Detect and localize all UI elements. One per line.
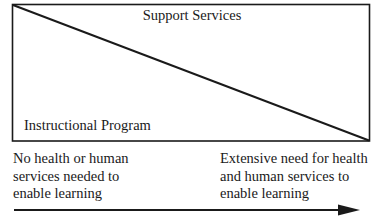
axis-left-label: No health or human services needed to en… <box>13 150 129 203</box>
arrow-head-icon <box>338 205 360 216</box>
axis-right-line: Extensive need for health <box>220 150 368 168</box>
axis-left-line: enable learning <box>13 185 129 203</box>
instructional-program-label: Instructional Program <box>24 117 151 134</box>
axis-right-label: Extensive need for health and human serv… <box>220 150 368 203</box>
services-continuum-diagram: Support Services Instructional Program N… <box>0 0 378 221</box>
axis-right-line: enable learning <box>220 185 368 203</box>
axis-left-line: services needed to <box>13 168 129 186</box>
axis-left-line: No health or human <box>13 150 129 168</box>
axis-right-line: and human services to <box>220 168 368 186</box>
support-services-label: Support Services <box>0 7 378 24</box>
